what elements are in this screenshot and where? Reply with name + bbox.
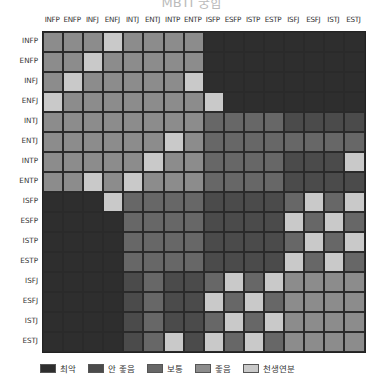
heatmap-cell	[143, 152, 163, 172]
heatmap-cell	[184, 112, 204, 132]
heatmap-cell	[43, 52, 63, 72]
legend-swatch-icon	[243, 364, 259, 373]
heatmap-cell	[143, 52, 163, 72]
heatmap-cell	[204, 192, 224, 212]
heatmap-cell	[304, 332, 324, 352]
heatmap-cell	[83, 292, 103, 312]
heatmap-cell	[224, 332, 244, 352]
row-label: ESTJ	[0, 331, 40, 351]
heatmap-cell	[284, 192, 304, 212]
heatmap-cell	[164, 212, 184, 232]
heatmap-cell	[204, 332, 224, 352]
heatmap-cell	[344, 72, 364, 92]
heatmap-cell	[244, 132, 264, 152]
heatmap-cell	[304, 312, 324, 332]
legend-swatch-icon	[147, 364, 163, 373]
heatmap-cell	[83, 172, 103, 192]
heatmap-cell	[123, 292, 143, 312]
heatmap-cell	[184, 32, 204, 52]
column-label: ISFJ	[283, 15, 303, 24]
heatmap-cell	[184, 312, 204, 332]
heatmap-cell	[204, 112, 224, 132]
heatmap-cell	[164, 152, 184, 172]
heatmap-cell	[344, 332, 364, 352]
legend-item: 보통	[147, 362, 183, 374]
heatmap-cell	[184, 172, 204, 192]
heatmap-cell	[164, 312, 184, 332]
heatmap-cell	[264, 272, 284, 292]
heatmap-cell	[264, 172, 284, 192]
heatmap-cell	[204, 172, 224, 192]
heatmap-cell	[43, 312, 63, 332]
column-label: ENFJ	[102, 15, 122, 24]
heatmap-cell	[123, 152, 143, 172]
heatmap-cell	[83, 232, 103, 252]
heatmap-cell	[304, 252, 324, 272]
heatmap-cell	[43, 172, 63, 192]
heatmap-cell	[224, 232, 244, 252]
heatmap-cell	[204, 252, 224, 272]
heatmap-cell	[244, 252, 264, 272]
row-label: ENTP	[0, 171, 40, 191]
heatmap-cell	[204, 92, 224, 112]
column-label: ESFP	[223, 15, 243, 24]
row-label: ESFJ	[0, 291, 40, 311]
heatmap-cell	[304, 232, 324, 252]
heatmap-cell	[123, 52, 143, 72]
column-label: ENFP	[62, 15, 82, 24]
heatmap-cell	[143, 272, 163, 292]
legend-item: 안 좋음	[88, 362, 135, 374]
heatmap-cell	[344, 152, 364, 172]
heatmap-cell	[304, 272, 324, 292]
heatmap-cell	[63, 312, 83, 332]
heatmap-cell	[204, 132, 224, 152]
heatmap-cell	[63, 272, 83, 292]
heatmap-cell	[43, 192, 63, 212]
heatmap-cell	[284, 292, 304, 312]
heatmap-cell	[103, 192, 123, 212]
heatmap-cell	[83, 132, 103, 152]
heatmap-cell	[244, 72, 264, 92]
heatmap-cell	[83, 252, 103, 272]
heatmap-cell	[184, 332, 204, 352]
heatmap-cell	[224, 132, 244, 152]
legend-label: 최악	[60, 362, 76, 374]
heatmap-cell	[344, 112, 364, 132]
heatmap-cell	[164, 112, 184, 132]
heatmap-cell	[184, 132, 204, 152]
legend-item: 천생연분	[243, 362, 295, 374]
heatmap-cell	[103, 72, 123, 92]
heatmap-cell	[143, 212, 163, 232]
heatmap-cell	[224, 312, 244, 332]
heatmap-cell	[164, 292, 184, 312]
heatmap-cell	[164, 272, 184, 292]
heatmap-cell	[264, 72, 284, 92]
heatmap-cell	[204, 32, 224, 52]
heatmap-cell	[204, 152, 224, 172]
heatmap-cell	[43, 292, 63, 312]
heatmap-cell	[344, 192, 364, 212]
heatmap-cell	[324, 272, 344, 292]
heatmap-cell	[143, 72, 163, 92]
heatmap-cell	[103, 252, 123, 272]
heatmap-cell	[224, 112, 244, 132]
heatmap-cell	[184, 272, 204, 292]
heatmap-cell	[264, 292, 284, 312]
heatmap-cell	[304, 212, 324, 232]
heatmap-cell	[164, 132, 184, 152]
row-label: ENFJ	[0, 91, 40, 111]
heatmap-cell	[184, 72, 204, 92]
heatmap-cell	[83, 192, 103, 212]
heatmap-cell	[224, 172, 244, 192]
heatmap-cell	[123, 332, 143, 352]
heatmap-cell	[164, 32, 184, 52]
heatmap-cell	[43, 112, 63, 132]
heatmap-cell	[83, 152, 103, 172]
heatmap-cell	[264, 252, 284, 272]
heatmap-cell	[304, 72, 324, 92]
column-label: ISFP	[203, 15, 223, 24]
heatmap-cell	[284, 32, 304, 52]
heatmap-cell	[284, 132, 304, 152]
heatmap-cell	[244, 212, 264, 232]
heatmap-cell	[123, 312, 143, 332]
